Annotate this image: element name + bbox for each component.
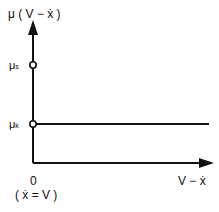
s-subscript: s: [15, 63, 19, 70]
mu-s-label: μs: [9, 60, 19, 71]
mu-k-point: [30, 121, 36, 127]
x-axis-label: V − ẋ: [178, 175, 206, 187]
origin-note: ( ẋ = V ): [15, 189, 57, 201]
mu-k-label: μk: [9, 119, 19, 130]
y-axis-arrowhead: [28, 20, 38, 35]
x-axis-arrowhead: [199, 158, 214, 168]
y-axis-label: μ ( V − ẋ ): [8, 8, 61, 20]
origin-label: 0: [30, 175, 37, 187]
k-subscript: k: [15, 122, 19, 129]
mu-s-point: [30, 62, 36, 68]
